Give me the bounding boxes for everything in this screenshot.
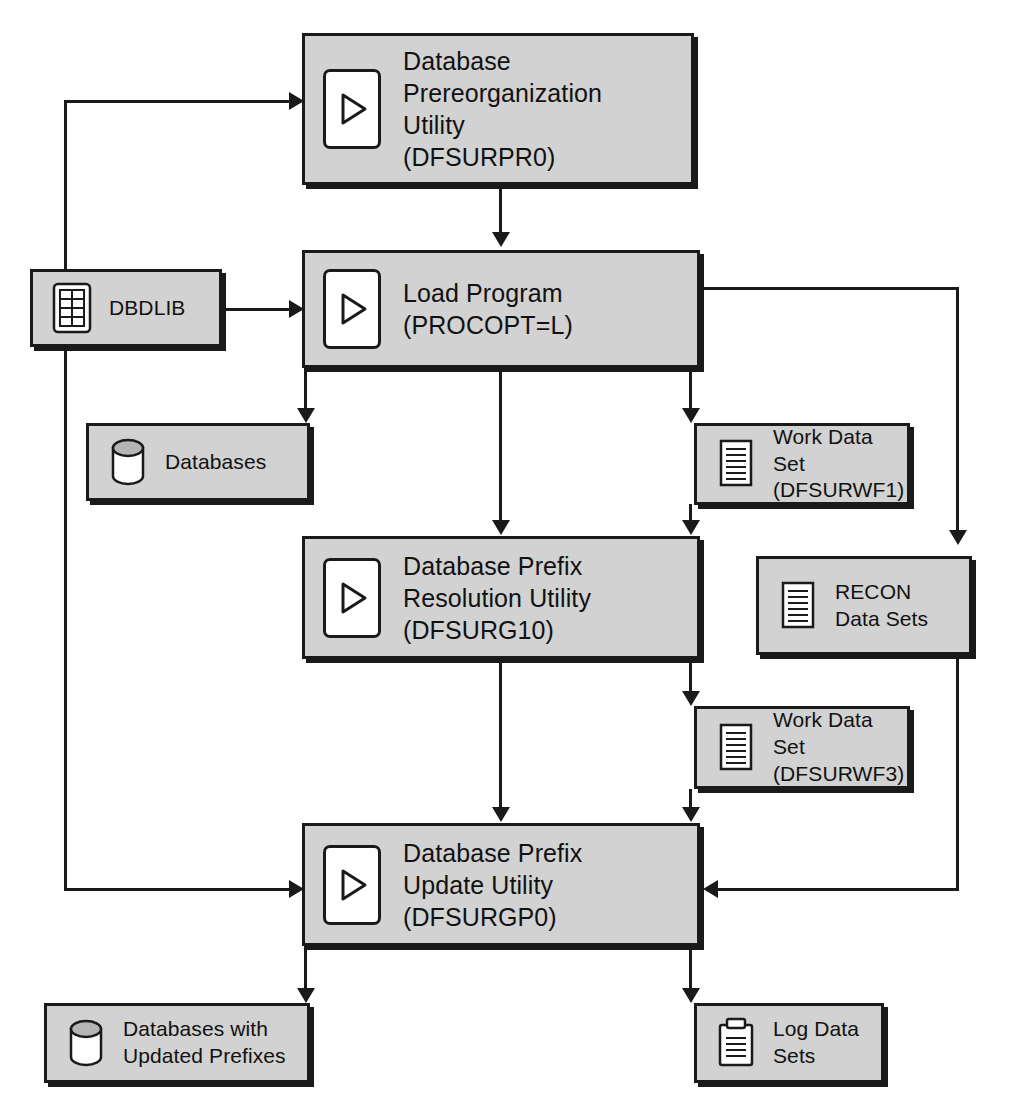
cylinder-icon: [105, 435, 151, 489]
arrowhead-update-to-logsets: [682, 988, 700, 1003]
arrowhead-resolution-to-update: [492, 807, 510, 822]
flowchart-canvas: Database Prereorganization Utility (DFSU…: [0, 0, 1010, 1099]
arrowhead-resolution-to-wf3: [682, 691, 700, 706]
play-icon: [321, 67, 383, 151]
edge-prereorg-to-load: [499, 185, 502, 232]
node-load-program[interactable]: Load Program (PROCOPT=L): [302, 250, 700, 368]
library-icon: [49, 281, 95, 335]
edge-resolution-to-update: [499, 659, 502, 807]
cylinder-icon: [63, 1016, 109, 1070]
arrowhead-wf1-to-resolution: [682, 520, 700, 535]
arrowhead-prereorg-to-load: [492, 232, 510, 247]
node-label: Databases with Updated Prefixes: [123, 1016, 286, 1070]
edge-update-to-logsets: [689, 946, 692, 988]
node-recon-data-sets[interactable]: RECON Data Sets: [756, 556, 972, 655]
edge-recon-to-update-h: [718, 888, 958, 891]
node-label: Databases: [165, 449, 266, 476]
edge-load-to-recon-v: [956, 287, 959, 530]
arrowhead-load-to-resolution: [492, 520, 510, 535]
arrowhead-load-to-wf1: [682, 408, 700, 423]
node-label: Work Data Set (DFSURWF3): [773, 707, 907, 788]
node-label: Database Prefix Update Utility (DFSURGP0…: [403, 837, 582, 933]
node-label: RECON Data Sets: [835, 579, 928, 633]
arrowhead-recon-to-update: [703, 880, 718, 898]
node-prefix-update-utility[interactable]: Database Prefix Update Utility (DFSURGP0…: [302, 823, 700, 946]
edge-load-to-resolution: [499, 368, 502, 520]
node-label: Database Prereorganization Utility (DFSU…: [403, 45, 602, 173]
edge-dbdlib-to-load: [222, 308, 289, 311]
document-icon: [713, 721, 759, 775]
edge-load-to-recon-h: [700, 287, 959, 290]
node-label: Load Program (PROCOPT=L): [403, 277, 573, 341]
edge-resolution-to-wf3: [689, 659, 692, 691]
arrowhead-update-to-dbupdated: [297, 988, 315, 1003]
edge-load-to-databases: [304, 368, 307, 408]
edge-load-to-wf1: [689, 368, 692, 408]
node-label: DBDLIB: [109, 295, 185, 322]
node-label: Database Prefix Resolution Utility (DFSU…: [403, 550, 591, 646]
edge-dbdlib-to-update: [64, 888, 289, 891]
play-icon: [321, 556, 383, 640]
edge-recon-to-update-v: [956, 655, 959, 891]
node-databases-updated-prefixes[interactable]: Databases with Updated Prefixes: [44, 1003, 310, 1083]
edge-wf1-to-resolution: [689, 504, 692, 520]
edge-dbdlib-to-prereorg: [64, 100, 289, 103]
edge-dbdlib-spine: [64, 100, 67, 890]
play-icon: [321, 267, 383, 351]
play-icon: [321, 843, 383, 927]
edge-update-to-dbupdated: [304, 946, 307, 988]
node-dbdlib[interactable]: DBDLIB: [30, 269, 222, 347]
node-databases[interactable]: Databases: [86, 423, 310, 501]
document-icon: [775, 579, 821, 633]
node-prereorganization-utility[interactable]: Database Prereorganization Utility (DFSU…: [302, 33, 694, 185]
node-label: Log Data Sets: [773, 1016, 859, 1070]
arrowhead-load-to-recon: [949, 530, 967, 545]
clipboard-icon: [713, 1016, 759, 1070]
arrowhead-load-to-databases: [297, 408, 315, 423]
node-prefix-resolution-utility[interactable]: Database Prefix Resolution Utility (DFSU…: [302, 536, 700, 659]
edge-wf3-to-update: [689, 789, 692, 807]
node-work-data-set-wf1[interactable]: Work Data Set (DFSURWF1): [694, 423, 910, 505]
node-work-data-set-wf3[interactable]: Work Data Set (DFSURWF3): [694, 706, 910, 789]
node-label: Work Data Set (DFSURWF1): [773, 424, 907, 505]
document-icon: [713, 437, 759, 491]
arrowhead-wf3-to-update: [682, 807, 700, 822]
node-log-data-sets[interactable]: Log Data Sets: [694, 1003, 884, 1083]
